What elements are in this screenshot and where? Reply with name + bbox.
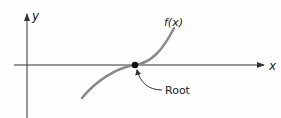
diagram-svg: y x f(x) Root [0,0,281,118]
y-axis-label: y [31,9,40,23]
curve-label: f(x) [164,16,183,29]
x-axis-label: x [268,59,277,73]
function-curve [82,28,174,98]
root-label: Root [165,84,191,97]
root-point [132,62,139,69]
root-diagram: y x f(x) Root [0,0,281,118]
root-leader-arrow [137,70,162,90]
